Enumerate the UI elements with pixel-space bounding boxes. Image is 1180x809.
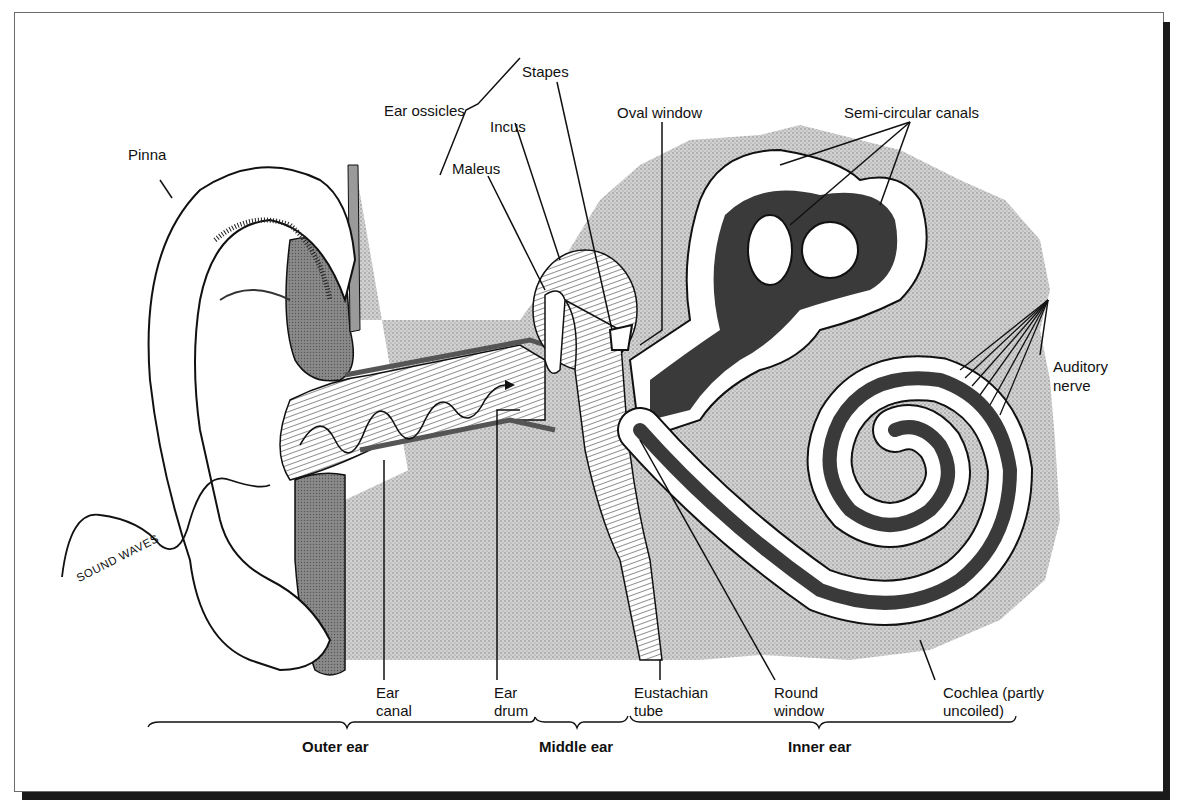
label-auditory-nerve-line2: nerve — [1053, 376, 1091, 395]
label-ear-canal-line2: canal — [376, 701, 412, 720]
label-pinna: Pinna — [128, 145, 166, 164]
label-ear-canal-line1: Ear — [376, 683, 399, 702]
label-stapes: Stapes — [522, 62, 569, 81]
label-round-window-line1: Round — [774, 683, 818, 702]
label-auditory-nerve-line1: Auditory — [1053, 357, 1108, 376]
label-ear-ossicles: Ear ossicles — [384, 101, 465, 120]
label-eustachian-tube-line2: tube — [634, 701, 663, 720]
label-semi-circular-canals: Semi-circular canals — [844, 103, 979, 122]
region-outer-ear: Outer ear — [302, 738, 369, 755]
label-ear-drum-line2: drum — [494, 701, 528, 720]
label-eustachian-tube-line1: Eustachian — [634, 683, 708, 702]
label-incus: Incus — [490, 117, 526, 136]
label-ear-drum-line1: Ear — [494, 683, 517, 702]
label-round-window-line2: window — [774, 701, 824, 720]
label-maleus: Maleus — [452, 159, 500, 178]
region-inner-ear: Inner ear — [788, 738, 851, 755]
label-oval-window: Oval window — [617, 103, 702, 122]
region-middle-ear: Middle ear — [539, 738, 613, 755]
region-braces — [148, 716, 1016, 728]
label-cochlea-line1: Cochlea (partly — [943, 683, 1044, 702]
label-cochlea-line2: uncoiled) — [943, 701, 1004, 720]
